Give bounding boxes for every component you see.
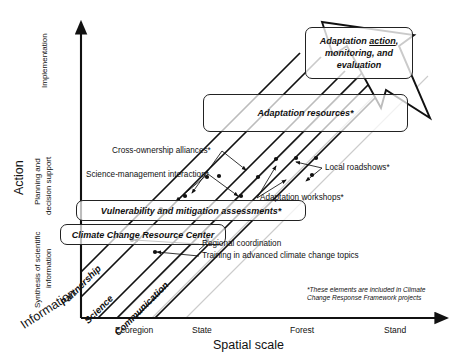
callout-training: Training in advanced climate change topi… — [202, 251, 359, 260]
x-tick-stand: Stand — [384, 325, 406, 335]
callout-science-management-interaction: Science-management interaction* — [86, 170, 209, 179]
y-tier-implementation: Implementation — [40, 33, 49, 88]
box-line1-prefix: Adaptation — [320, 36, 370, 46]
y-tier-planning-line2: decision support — [44, 157, 53, 215]
callout-cross-ownership-alliances: Cross-ownership alliances* — [112, 146, 211, 155]
box-adaptation-action-text: Adaptation action, monitoring, and evalu… — [320, 35, 399, 71]
box-vulnerability-assessments[interactable]: Vulnerability and mitigation assessments… — [76, 200, 306, 221]
callout-adaptation-workshops: Adaptation workshops* — [260, 193, 344, 202]
box-adaptation-resources[interactable]: Adaptation resources* — [203, 94, 408, 132]
box-vulnerability-label: Vulnerability and mitigation assessments… — [101, 206, 281, 216]
footnote-line2: Change Response Framework projects — [307, 294, 421, 301]
y-tier-synthesis-line2: information — [44, 248, 53, 288]
y-axis-title: Action — [12, 160, 26, 195]
box-line1-tail: , — [396, 36, 399, 46]
box-line2: monitoring, and — [325, 48, 393, 58]
box-adaptation-action[interactable]: Adaptation action, monitoring, and evalu… — [305, 27, 413, 79]
y-tier-planning-line1: Planning and — [33, 158, 42, 205]
x-axis-title: Spatial scale — [213, 338, 284, 352]
x-tick-forest: Forest — [290, 325, 314, 335]
box-line1-underline: action — [369, 36, 396, 46]
y-tier-synthesis-line1: Synthesis of scientific — [33, 232, 42, 308]
callout-regional-coordination: Regional coordination — [202, 239, 281, 248]
box-ccrc-label: Climate Change Resource Center — [72, 230, 215, 240]
footnote-line1: *These elements are included in Climate — [307, 286, 425, 293]
callout-local-roadshows: Local roadshows* — [325, 163, 390, 172]
diagram-root: Action Implementation Planning and decis… — [0, 0, 462, 362]
diagonal-bands — [81, 53, 400, 318]
x-tick-state: State — [192, 325, 212, 335]
footnote: *These elements are included in Climate … — [307, 286, 425, 302]
box-adaptation-resources-label: Adaptation resources* — [257, 108, 353, 118]
box-line3: evaluation — [337, 60, 382, 70]
